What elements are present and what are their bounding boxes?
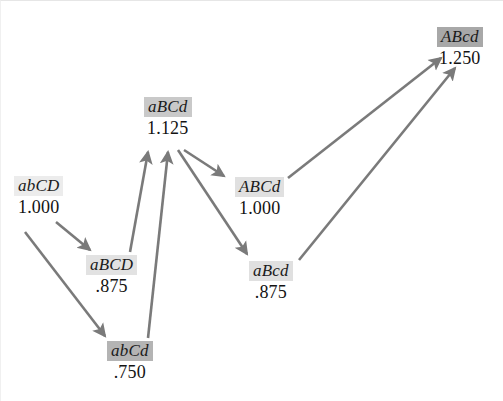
node-fitness-value: .750: [107, 363, 153, 381]
node-fitness-value: 1.250: [437, 49, 483, 67]
node-genotype-label: ABCd: [235, 177, 284, 197]
node-genotype-label: abCD: [14, 176, 63, 196]
node-genotype-label: aBCd: [144, 97, 192, 117]
figure-canvas: abCD1.000aBCD.875abCd.750aBCd1.125ABCd1.…: [0, 0, 503, 401]
node-genotype-label: abCd: [107, 341, 153, 361]
node-abCd[interactable]: abCd.750: [107, 341, 153, 381]
arrow-aBcd-to-ABcd: [299, 68, 455, 260]
node-genotype-label: ABcd: [437, 27, 483, 47]
arrow-aBCd-to-ABCd: [184, 150, 224, 176]
node-genotype-label: aBcd: [249, 261, 293, 281]
node-fitness-value: .875: [86, 277, 137, 295]
node-aBcd[interactable]: aBcd.875: [249, 261, 293, 301]
arrow-aBCD-to-aBCd: [130, 152, 148, 252]
arrow-abCd-to-aBCd: [148, 152, 168, 338]
node-ABcd[interactable]: ABcd1.250: [437, 27, 483, 67]
node-ABCd[interactable]: ABCd1.000: [235, 177, 284, 217]
node-aBCd[interactable]: aBCd1.125: [144, 97, 192, 137]
arrow-ABCd-to-ABcd: [288, 58, 441, 178]
node-genotype-label: aBCD: [86, 255, 137, 275]
node-fitness-value: 1.125: [144, 119, 192, 137]
node-fitness-value: 1.000: [14, 198, 63, 216]
node-aBCD[interactable]: aBCD.875: [86, 255, 137, 295]
node-abCD[interactable]: abCD1.000: [14, 176, 63, 216]
arrow-abCD-to-aBCD: [56, 222, 90, 250]
node-fitness-value: 1.000: [235, 199, 284, 217]
node-fitness-value: .875: [249, 283, 293, 301]
